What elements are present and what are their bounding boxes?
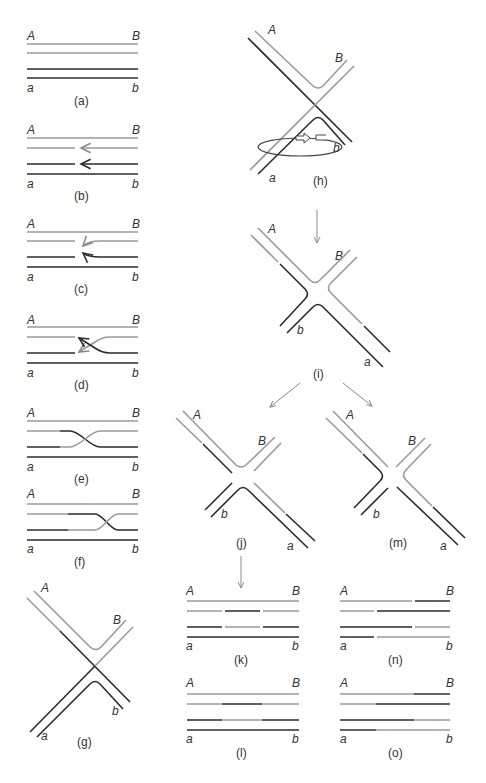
label-B: B [132,406,140,420]
label-B: B [132,217,140,231]
label-a: a [27,460,34,474]
strand-bottom-invading-arrow [83,253,138,257]
strand-a-inner-black [286,514,315,541]
label-B: B [335,51,343,65]
panel-e: A B a b (e) [26,406,140,486]
caption-f: (f) [74,555,85,569]
strand-b-inner-black [205,483,232,510]
label-B: B [132,487,140,501]
label-b: b [221,507,228,521]
label-a: a [186,732,193,746]
label-A: A [185,584,194,598]
label-B: B [292,676,300,690]
label-A: A [192,408,201,422]
rotation-arrow-tail-icon [316,135,326,140]
label-a: a [364,355,371,369]
strand-A-inner-gray [27,598,60,631]
label-B: B [132,29,140,43]
label-B: B [113,613,121,627]
label-a: a [27,81,34,95]
panel-m: A B b a (m) [326,408,465,553]
label-A: A [339,676,348,690]
label-a: a [27,542,34,556]
strand-heteroduplex-black [60,431,138,447]
label-A: A [26,217,35,231]
holliday-junction-figure: A B a b (a) A B a b (b) A B a b (c) [0,0,486,783]
label-b: b [446,732,453,746]
label-b: b [132,81,139,95]
strand-top-crossing-arrow [79,337,138,352]
label-b: b [292,732,299,746]
strand-a-b-outer [258,118,345,175]
label-a: a [41,729,48,743]
panel-k: A B a b (k) [185,584,300,667]
strand-A-b-inner-black [354,454,383,508]
label-a: a [269,171,276,185]
caption-g: (g) [77,735,92,749]
panel-n: A B a b (n) [339,584,454,667]
caption-k: (k) [234,653,248,667]
label-b: b [132,366,139,380]
panel-j: A B b a (j) [176,408,315,553]
caption-c: (c) [74,282,88,296]
label-b: b [333,141,340,155]
panel-l: A B a b (l) [185,676,300,760]
label-B: B [408,434,416,448]
strand-heteroduplex-gray [68,514,138,530]
caption-a: (a) [74,94,89,108]
label-B: B [132,313,140,327]
strand-a-inner-black [433,507,465,538]
label-b: b [132,270,139,284]
strand-B-inner-black [30,666,95,732]
caption-l: (l) [236,746,247,760]
strand-bottom-crossing-arrow [79,338,138,353]
label-a: a [440,539,447,553]
panel-i: A B b a (i) [251,222,390,381]
label-b: b [112,704,119,718]
label-A: A [26,29,35,43]
label-A: A [40,581,49,595]
arrow-i-to-m [343,383,372,406]
arrow-i-to-j [270,383,300,407]
label-A: A [267,222,276,236]
label-b: b [373,507,380,521]
label-A: A [26,313,35,327]
label-b: b [132,460,139,474]
label-B: B [446,676,454,690]
label-a: a [340,732,347,746]
label-a: a [27,366,34,380]
caption-h: (h) [313,174,328,188]
label-a: a [287,539,294,553]
strand-a-inner-black [364,326,390,352]
rotation-ring-icon [258,138,342,156]
label-a: a [186,639,193,653]
caption-b: (b) [74,189,89,203]
label-A: A [339,584,348,598]
caption-o: (o) [388,746,403,760]
label-A: A [185,676,194,690]
strand-top-invading-arrow [83,241,138,246]
label-B: B [292,584,300,598]
strand-heteroduplex-gray [60,431,138,447]
label-b: b [292,639,299,653]
strand-heteroduplex-black [68,514,138,530]
strand-a-inner-gray [254,483,285,513]
label-b: b [297,323,304,337]
strand-A-outer-gray [333,411,388,467]
label-b: b [446,639,453,653]
panel-c: A B a b (c) [26,217,140,296]
caption-m: (m) [389,536,407,550]
panel-d: A B a b (d) [26,313,140,392]
label-B: B [446,584,454,598]
caption-d: (d) [74,378,89,392]
label-B: B [132,123,140,137]
strand-A-inner-gray [251,235,278,262]
label-a: a [340,639,347,653]
caption-e: (e) [74,472,89,486]
label-a: a [27,177,34,191]
caption-j: (j) [236,536,247,550]
panel-o: A B a b (o) [339,676,454,760]
label-A: A [26,487,35,501]
label-b: b [132,177,139,191]
caption-i: (i) [313,367,324,381]
